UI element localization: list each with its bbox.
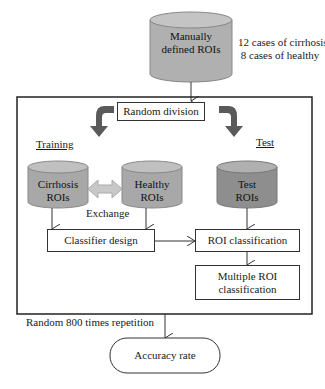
healthy-line1: Healthy xyxy=(122,178,182,191)
accuracy-label: Accuracy rate xyxy=(110,349,220,362)
training-label: Training xyxy=(36,138,74,151)
test-rois-label: Test ROIs xyxy=(217,178,277,204)
healthy-line2: ROIs xyxy=(122,191,182,204)
cirrhosis-label: Cirrhosis ROIs xyxy=(28,178,88,204)
left-split-arrow-icon xyxy=(90,106,114,137)
test-rois-line1: Test xyxy=(217,178,277,191)
multiple-roi-box: Multiple ROI classification xyxy=(195,265,300,300)
test-label: Test xyxy=(256,136,274,149)
multiple-roi-line1: Multiple ROI xyxy=(218,270,278,283)
roi-classification-box: ROI classification xyxy=(195,229,300,252)
test-rois-line2: ROIs xyxy=(217,191,277,204)
exchange-arrow-icon xyxy=(88,180,122,198)
healthy-label: Healthy ROIs xyxy=(122,178,182,204)
cirrhosis-line2: ROIs xyxy=(28,191,88,204)
source-label: Manually defined ROIs xyxy=(150,30,232,56)
source-label-line2: defined ROIs xyxy=(150,43,232,56)
classifier-design-box: Classifier design xyxy=(47,229,155,252)
source-note-line1: 12 cases of cirrhosis xyxy=(238,36,322,49)
repetition-label: Random 800 times repetition xyxy=(26,316,154,329)
source-note-line2: 8 cases of healthy xyxy=(238,49,322,62)
exchange-label: Exchange xyxy=(86,207,129,220)
random-division-box: Random division xyxy=(117,102,205,121)
cirrhosis-line1: Cirrhosis xyxy=(28,178,88,191)
right-split-arrow-icon xyxy=(219,106,243,137)
source-note: 12 cases of cirrhosis 8 cases of healthy xyxy=(238,36,322,62)
multiple-roi-line2: classification xyxy=(218,283,276,296)
source-label-line1: Manually xyxy=(150,30,232,43)
